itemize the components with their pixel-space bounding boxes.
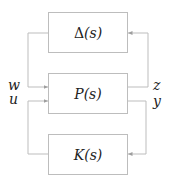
plant-label: P(s) bbox=[73, 86, 102, 102]
wire-y bbox=[128, 101, 146, 154]
controller-label: K(s) bbox=[73, 147, 103, 163]
block-diagram: Δ(s) P(s) K(s) w u z y bbox=[0, 0, 171, 186]
wire-u bbox=[28, 101, 48, 154]
signal-u-label: u bbox=[9, 91, 18, 107]
signal-y-label: y bbox=[152, 93, 162, 109]
wire-z bbox=[128, 33, 148, 87]
signal-z-label: z bbox=[152, 77, 161, 93]
wire-w bbox=[28, 33, 48, 87]
delta-label: Δ(s) bbox=[74, 25, 102, 41]
